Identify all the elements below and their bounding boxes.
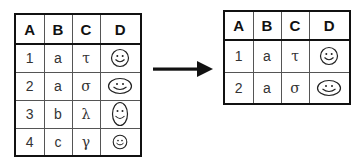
cell-b: a <box>253 72 281 104</box>
cell-b: a <box>44 44 72 72</box>
header-d: D <box>309 11 350 40</box>
cell-d <box>309 72 350 104</box>
header-c: C <box>72 14 100 44</box>
table-row: 2 a σ <box>224 72 350 104</box>
header-a: A <box>15 14 44 44</box>
header-c: C <box>281 11 309 40</box>
cell-a: 4 <box>15 128 44 156</box>
cell-d <box>309 40 350 72</box>
header-d: D <box>100 14 141 44</box>
cell-c: σ <box>281 72 309 104</box>
cell-b: a <box>253 40 281 72</box>
table-row: 1 a τ <box>15 44 141 72</box>
table-row: 1 a τ <box>224 40 350 72</box>
smiley-small-icon <box>112 134 128 150</box>
cell-c: τ <box>281 40 309 72</box>
cell-a: 2 <box>15 72 44 100</box>
cell-a: 1 <box>15 44 44 72</box>
cell-d <box>100 100 141 128</box>
cell-b: b <box>44 100 72 128</box>
smiley-tall-icon <box>111 101 129 127</box>
smiley-wide-icon <box>316 79 342 97</box>
cell-b: c <box>44 128 72 156</box>
cell-a: 2 <box>224 72 253 104</box>
cell-c: τ <box>72 44 100 72</box>
cell-d <box>100 72 141 100</box>
smiley-round-icon <box>110 48 130 68</box>
header-b: B <box>253 11 281 40</box>
smiley-round-icon <box>319 46 339 66</box>
header-b: B <box>44 14 72 44</box>
smiley-wide-icon <box>107 77 133 95</box>
cell-a: 1 <box>224 40 253 72</box>
table-row: 3 b λ <box>15 100 141 128</box>
table-header-row: A B C D <box>224 11 350 40</box>
table-row: 2 a σ <box>15 72 141 100</box>
cell-c: γ <box>72 128 100 156</box>
right-arrow-icon <box>153 61 213 77</box>
cell-d <box>100 128 141 156</box>
result-table: A B C D 1 a τ 2 a σ <box>223 10 351 105</box>
cell-c: σ <box>72 72 100 100</box>
table-header-row: A B C D <box>15 14 141 44</box>
table-row: 4 c γ <box>15 128 141 156</box>
cell-d <box>100 44 141 72</box>
cell-b: a <box>44 72 72 100</box>
cell-a: 3 <box>15 100 44 128</box>
cell-c: λ <box>72 100 100 128</box>
source-table: A B C D 1 a τ 2 a σ 3 <box>14 13 142 157</box>
header-a: A <box>224 11 253 40</box>
